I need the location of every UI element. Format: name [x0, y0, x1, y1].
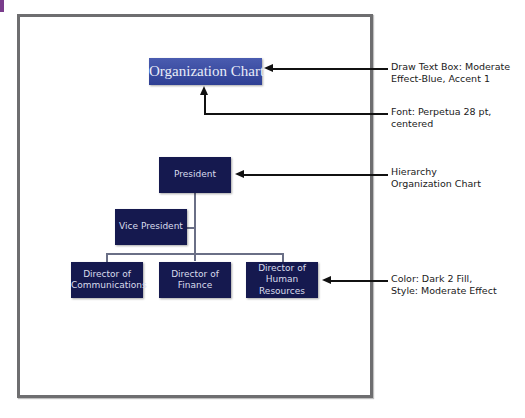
node-director-communications: Director of Communications [71, 262, 143, 298]
callout-hierarchy: Hierarchy Organization Chart [391, 166, 481, 191]
connector-comm [106, 253, 108, 262]
callout-line: Style: Moderate Effect [391, 285, 497, 297]
node-director-finance-label: Director of Finance [166, 269, 224, 292]
callout-arrow-3-line [243, 174, 388, 176]
callout-line: Color: Dark 2 Fill, [391, 273, 497, 285]
corner-accent-mark [0, 0, 4, 12]
arrow-head-icon [235, 170, 244, 178]
callout-arrow-2-vertical [204, 94, 206, 114]
node-president: President [159, 157, 231, 193]
callout-font: Font: Perpetua 28 pt, centered [391, 106, 491, 131]
node-president-label: President [174, 169, 216, 180]
callout-line: centered [391, 118, 491, 130]
node-director-finance: Director of Finance [159, 262, 231, 298]
callout-arrow-4-line [330, 280, 388, 282]
node-vice-president-label: Vice President [119, 221, 183, 232]
callout-line: Effect-Blue, Accent 1 [391, 73, 510, 85]
callout-arrow-1-line [272, 68, 388, 70]
callout-line: Font: Perpetua 28 pt, [391, 106, 491, 118]
callout-line: Organization Chart [391, 178, 481, 190]
callout-text-box-style: Draw Text Box: Moderate Effect-Blue, Acc… [391, 61, 510, 86]
node-director-hr: Director of Human Resources [246, 262, 318, 298]
arrow-head-icon [264, 64, 273, 72]
node-director-hr-label: Director of Human Resources [252, 263, 312, 297]
callout-arrow-2-horizontal [204, 113, 388, 115]
arrow-head-icon [322, 276, 331, 284]
title-text-box: Organization Chart [149, 58, 262, 85]
callout-line: Draw Text Box: Moderate [391, 61, 510, 73]
connector-vp [187, 227, 195, 229]
node-director-communications-label: Director of Communications [71, 269, 143, 292]
connector-hr [282, 253, 284, 262]
callout-line: Hierarchy [391, 166, 481, 178]
callout-color-style: Color: Dark 2 Fill, Style: Moderate Effe… [391, 273, 497, 298]
connector-horizontal-bar [106, 253, 284, 255]
arrow-head-icon [200, 86, 208, 95]
node-vice-president: Vice President [115, 209, 187, 245]
